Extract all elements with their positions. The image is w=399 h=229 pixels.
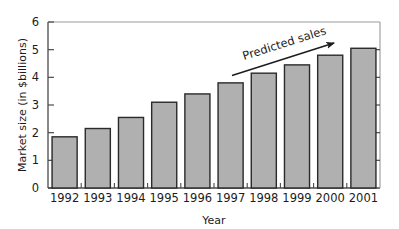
x-tick-label-2001: 2001 [349,191,378,205]
bar-1999 [284,65,309,188]
x-tick-label-1996: 1996 [183,191,212,205]
x-tick-label-1994: 1994 [116,191,145,205]
y-tick-label-4: 4 [32,70,39,84]
y-tick-label-0: 0 [32,181,39,195]
x-tick-label-1995: 1995 [150,191,179,205]
x-tick-label-1999: 1999 [282,191,311,205]
x-tick-label-1998: 1998 [249,191,278,205]
bar-1992 [52,137,77,188]
x-axis-title: Year [201,214,226,227]
bar-1996 [185,94,210,188]
y-tick-label-2: 2 [32,126,39,140]
bar-chart: 0123456 19921993199419951996199719981999… [0,0,399,229]
bar-1993 [85,129,110,188]
y-tick-label-1: 1 [32,153,39,167]
y-tick-label-6: 6 [32,15,39,29]
bar-1995 [152,102,177,188]
x-tick-label-1992: 1992 [50,191,79,205]
bar-1994 [118,117,143,188]
bar-1997 [218,83,243,188]
x-tick-label-2000: 2000 [316,191,345,205]
y-axis-title: Market size (in $billions) [16,38,29,172]
x-tick-label-1997: 1997 [216,191,245,205]
x-tick-label-1993: 1993 [83,191,112,205]
y-tick-label-3: 3 [32,98,39,112]
bar-1998 [251,73,276,188]
chart-canvas: 0123456 19921993199419951996199719981999… [0,0,399,229]
bar-2001 [351,48,376,188]
y-tick-label-5: 5 [32,43,39,57]
bar-2000 [318,55,343,188]
